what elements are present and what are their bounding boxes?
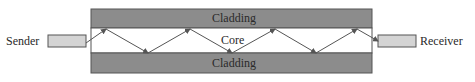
- sender-box: [48, 35, 86, 47]
- receiver-label: Receiver: [420, 34, 463, 48]
- sender-label: Sender: [6, 34, 39, 48]
- core-label: Core: [221, 33, 244, 47]
- bottom-cladding-label: Cladding: [212, 56, 256, 70]
- top-cladding-label: Cladding: [212, 11, 256, 25]
- optical-fiber-diagram: Sender Receiver Cladding Core Cladding: [0, 0, 475, 82]
- receiver-box: [378, 35, 416, 47]
